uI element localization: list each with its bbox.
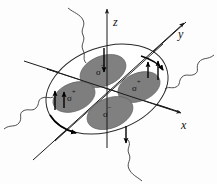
x-axis-label: x bbox=[180, 118, 187, 132]
orbital-photon-diagram: z y x σ− σ+ σ+ σ− bbox=[0, 0, 217, 184]
figure-root: z y x σ− σ+ σ+ σ− bbox=[0, 0, 217, 184]
y-axis-label: y bbox=[177, 27, 184, 41]
z-axis-label: z bbox=[112, 15, 118, 29]
